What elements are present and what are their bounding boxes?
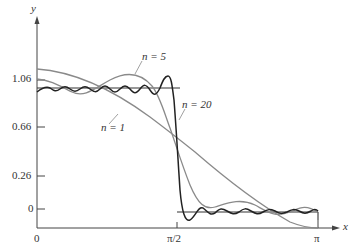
x-axis-label: x [343, 220, 348, 232]
y-tick-0-66: 0.66 [12, 120, 31, 132]
plot-area [0, 0, 353, 251]
y-tick-0: 0 [28, 202, 34, 214]
x-axis-arrow-icon [332, 226, 340, 231]
annotation-n5: n = 5 [142, 50, 166, 62]
y-axis-arrow-icon [35, 16, 40, 24]
fourier-partial-sums-chart: y x 1.06 0.66 0.26 0 0 π/2 π n = 5 n = 2… [0, 0, 353, 251]
x-tick-pi: π [314, 232, 320, 244]
annotation-n20: n = 20 [182, 98, 211, 110]
y-tick-0-26: 0.26 [12, 169, 31, 181]
x-tick-0: 0 [34, 232, 40, 244]
x-tick-pi-over-2: π/2 [167, 232, 181, 244]
y-tick-1-06: 1.06 [12, 72, 31, 84]
y-axis-label: y [31, 2, 36, 14]
annotation-n1: n = 1 [101, 121, 125, 133]
series-n20 [37, 76, 318, 220]
